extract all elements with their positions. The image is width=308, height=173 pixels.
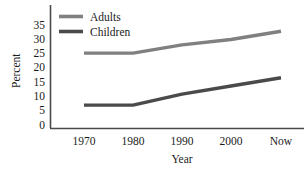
y-tick-label-5: 5 — [39, 104, 45, 116]
chart-svg: 35 30 25 20 15 10 5 0 Percent 1970 1980 … — [0, 0, 308, 173]
x-tick-label-1970: 1970 — [73, 135, 96, 147]
y-tick-label-35: 35 — [34, 19, 46, 31]
x-tick-label-now: Now — [270, 135, 293, 147]
x-tick-label-1980: 1980 — [122, 135, 145, 147]
y-axis-title: Percent — [10, 53, 22, 88]
x-tick-label-2000: 2000 — [220, 135, 243, 147]
y-tick-label-0: 0 — [39, 119, 45, 131]
line-chart: 35 30 25 20 15 10 5 0 Percent 1970 1980 … — [0, 0, 308, 173]
y-tick-label-25: 25 — [34, 47, 46, 59]
y-tick-label-10: 10 — [34, 90, 46, 102]
x-axis-title: Year — [171, 153, 192, 165]
y-tick-label-30: 30 — [34, 33, 46, 45]
y-tick-label-15: 15 — [34, 76, 46, 88]
legend-label-children: Children — [90, 26, 130, 38]
series-line-children — [84, 78, 281, 105]
legend-label-adults: Adults — [90, 11, 121, 23]
x-tick-label-1990: 1990 — [171, 135, 194, 147]
y-tick-label-20: 20 — [34, 61, 46, 73]
